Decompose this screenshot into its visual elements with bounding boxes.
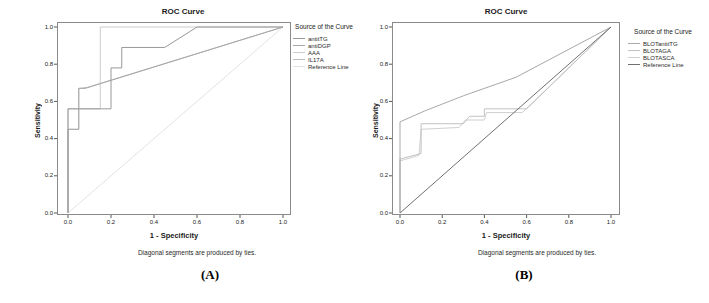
legend-entry: antiDGP [293, 43, 355, 48]
roc-figure: ROC Curve Sensitivity 1 - Specificity Di… [0, 0, 709, 303]
legend-line-swatch [628, 43, 640, 44]
x-tick-label: 0.6 [517, 219, 537, 225]
y-tick-label: 0.4 [31, 135, 53, 141]
legend-entry: Reference Line [628, 62, 698, 67]
legend-entry: antitTG [293, 36, 355, 41]
y-tick-label: 1.0 [366, 24, 388, 30]
plot-title-a: ROC Curve [66, 7, 300, 16]
legend-entry-label: BLOTASCA [643, 55, 675, 61]
x-tick-label: 0.0 [390, 219, 410, 225]
y-tick-label: 0.0 [366, 210, 388, 216]
legend-line-swatch [628, 57, 640, 58]
caption-a: Diagonal segments are produced by ties. [47, 249, 347, 256]
x-tick-label: 0.2 [432, 219, 452, 225]
x-tick-label: 1.0 [273, 219, 293, 225]
legend-entry-label: Reference Line [308, 64, 349, 70]
x-tick-label: 0.0 [58, 219, 78, 225]
x-tick-label: 1.0 [601, 219, 621, 225]
legend-entry: BLOTASCA [628, 55, 698, 60]
y-tick-label: 1.0 [31, 24, 53, 30]
x-axis-label-a: 1 - Specificity [57, 231, 291, 240]
panel-b: ROC Curve Sensitivity 1 - Specificity Di… [355, 0, 709, 303]
legend-line-swatch [293, 59, 305, 60]
y-tick-label: 0.2 [31, 172, 53, 178]
y-tick-label: 0.6 [31, 98, 53, 104]
y-tick-label: 0.0 [31, 210, 53, 216]
legend-title-a: Source of the Curve [293, 23, 355, 31]
legend-title-b: Source of the Curve [628, 28, 698, 36]
x-tick-label: 0.4 [144, 219, 164, 225]
legend-line-swatch [628, 50, 640, 51]
y-tick-label: 0.4 [366, 135, 388, 141]
legend-entry-label: AAA [308, 50, 320, 56]
x-tick-label: 0.8 [230, 219, 250, 225]
y-tick-label: 0.2 [366, 172, 388, 178]
legend-entry: IL17A [293, 57, 355, 62]
x-tick-label: 0.4 [474, 219, 494, 225]
legend-entry-label: antiDGP [308, 43, 331, 49]
x-tick-label: 0.6 [187, 219, 207, 225]
plot-area-b [392, 22, 620, 215]
legend-b: Source of the Curve BLOTantitTGBLOTAGABL… [628, 28, 698, 69]
panel-letter-b: (B) [392, 267, 656, 283]
legend-line-swatch [293, 38, 305, 39]
legend-entry: BLOTantitTG [628, 41, 698, 46]
plot-area-a [57, 22, 291, 215]
panel-a: ROC Curve Sensitivity 1 - Specificity Di… [0, 0, 355, 303]
y-tick-label: 0.8 [31, 61, 53, 67]
roc-plot-svg [392, 22, 620, 215]
y-tick-label: 0.6 [366, 98, 388, 104]
y-tick-label: 0.8 [366, 61, 388, 67]
legend-line-swatch [293, 66, 305, 67]
legend-entry-label: IL17A [308, 57, 324, 63]
y-axis-label-b: Sensitivity [372, 70, 379, 170]
legend-entry: AAA [293, 50, 355, 55]
x-tick-label: 0.8 [559, 219, 579, 225]
legend-line-swatch [628, 64, 640, 65]
x-tick-label: 0.2 [101, 219, 121, 225]
legend-line-swatch [293, 45, 305, 46]
roc-curve-reference-line [400, 27, 611, 213]
legend-entry: Reference Line [293, 64, 355, 69]
legend-entry-label: antitTG [308, 36, 328, 42]
caption-b: Diagonal segments are produced by ties. [387, 249, 687, 256]
legend-entries-b: BLOTantitTGBLOTAGABLOTASCAReference Line [628, 41, 698, 67]
x-axis-label-b: 1 - Specificity [392, 231, 620, 240]
legend-entries-a: antitTGantiDGPAAAIL17AReference Line [293, 36, 355, 69]
legend-entry-label: Reference Line [643, 62, 684, 68]
legend-line-swatch [293, 52, 305, 53]
roc-plot-svg [57, 22, 291, 215]
legend-entry-label: BLOTantitTG [643, 41, 678, 47]
plot-title-b: ROC Curve [392, 7, 620, 16]
legend-a: Source of the Curve antitTGantiDGPAAAIL1… [293, 23, 355, 71]
legend-entry: BLOTAGA [628, 48, 698, 53]
panel-letter-a: (A) [57, 267, 363, 283]
y-axis-label-a: Sensitivity [34, 70, 41, 170]
legend-entry-label: BLOTAGA [643, 48, 671, 54]
